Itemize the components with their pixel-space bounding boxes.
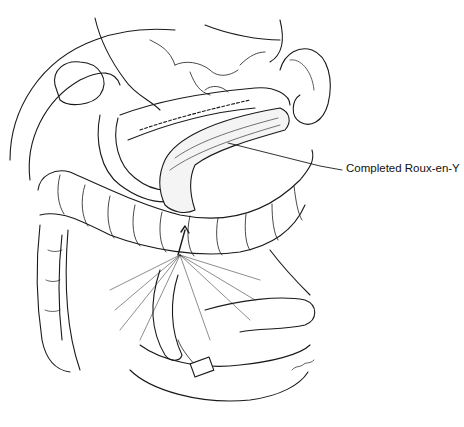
mesentery (110, 255, 260, 340)
roux-limb[interactable] (160, 108, 289, 212)
artist-signature (292, 360, 314, 370)
ascending-colon (37, 225, 80, 372)
liver-outline (10, 18, 282, 180)
jejunum-loops (130, 250, 315, 401)
roux-en-y-label: Completed Roux-en-Y (346, 162, 460, 174)
label-leader-line (228, 143, 342, 170)
spleen (280, 49, 330, 124)
arrow-icon (178, 226, 189, 255)
vessels (150, 40, 265, 95)
anatomical-illustration (0, 0, 464, 427)
